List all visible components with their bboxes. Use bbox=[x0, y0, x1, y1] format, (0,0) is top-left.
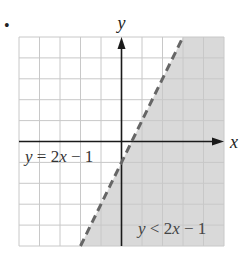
svg-text:y = 2x − 1: y = 2x − 1 bbox=[23, 147, 93, 166]
x-axis-label: x bbox=[229, 132, 238, 152]
svg-text:y < 2x − 1: y < 2x − 1 bbox=[136, 219, 206, 238]
y-axis-arrow-icon bbox=[118, 37, 126, 49]
inequality-graph: • x y y = 2x − 1 y < 2x − 1 bbox=[0, 0, 243, 254]
inequality-label: y < 2x − 1 bbox=[136, 219, 206, 238]
y-axis-label: y bbox=[116, 13, 126, 33]
equation-label: y = 2x − 1 bbox=[22, 145, 117, 167]
problem-bullet: • bbox=[4, 17, 10, 34]
